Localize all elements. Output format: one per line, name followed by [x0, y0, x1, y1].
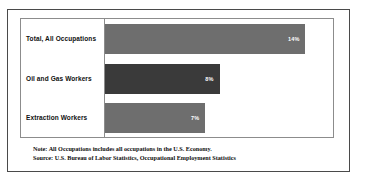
footnote-source: Source: U.S. Bureau of Labor Statistics,… [33, 153, 333, 162]
bar-track: 8% [105, 59, 333, 99]
bar-track: 14% [105, 19, 333, 59]
bar-row: Extraction Workers 7% [21, 98, 333, 138]
bar-track: 7% [105, 98, 333, 138]
bar-extraction-workers[interactable]: 7% [105, 103, 205, 133]
bar-oil-and-gas-workers[interactable]: 8% [105, 64, 220, 94]
bar-value-label-total-all-occupations: 14% [288, 24, 299, 54]
bar-row: Oil and Gas Workers 8% [21, 59, 333, 99]
footnote-block: Note: All Occupations includes all occup… [33, 144, 333, 162]
bar-row: Total, All Occupations 14% [21, 19, 333, 59]
bar-value-label-extraction-workers: 7% [191, 103, 199, 133]
bar-value-label-oil-and-gas-workers: 8% [205, 64, 213, 94]
chart-figure: Total, All Occupations 14% Oil and Gas W… [7, 9, 350, 172]
category-label-oil-and-gas-workers: Oil and Gas Workers [23, 59, 102, 99]
category-label-total-all-occupations: Total, All Occupations [23, 19, 102, 59]
bar-total-all-occupations[interactable]: 14% [105, 24, 305, 54]
category-label-extraction-workers: Extraction Workers [23, 98, 102, 138]
plot-area: Total, All Occupations 14% Oil and Gas W… [20, 18, 334, 138]
footnote-note: Note: All Occupations includes all occup… [33, 144, 333, 153]
